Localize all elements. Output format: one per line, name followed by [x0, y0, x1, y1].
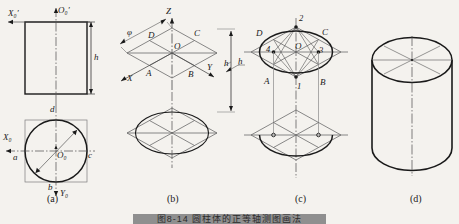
label-y0: Y₀ [60, 188, 68, 198]
label-point-4: 4 [266, 44, 270, 54]
label-x0-prime: X₀′ [8, 8, 19, 18]
caption-b: (b) [167, 193, 179, 204]
caption-d: (d) [410, 193, 422, 204]
label-h-c: h [238, 56, 243, 66]
label-O-c: O [295, 41, 302, 51]
x0-axis-arrow [6, 149, 11, 153]
phi-arrow-right [161, 19, 166, 24]
caption-c: (c) [295, 193, 306, 204]
label-o0: O₀ [57, 150, 67, 160]
center-point-2 [294, 25, 298, 29]
label-point-1: 1 [297, 81, 301, 91]
figure-title-text: 图8-14 圆柱体的正等轴测图画法 [133, 214, 326, 224]
phi-arrow-left [120, 39, 125, 44]
figure-title-bar: 图8-14 圆柱体的正等轴测图画法 [133, 214, 326, 224]
label-z: Z [166, 6, 171, 16]
cylinder-top-center-point [411, 59, 413, 61]
x-axis-arrow [121, 76, 127, 81]
caption-a: (a) [47, 193, 58, 204]
label-x0: X₀ [3, 132, 12, 142]
label-O-b: O [174, 41, 181, 51]
engineering-drawing-figure [0, 0, 459, 224]
label-h-a: h [94, 52, 99, 62]
label-Y-b: Y [207, 62, 212, 72]
label-point-3: 3 [319, 45, 323, 55]
panel-b-h-arrow-top [229, 31, 233, 36]
label-phi: φ [127, 27, 132, 37]
label-o0-prime: O₀′ [58, 5, 70, 15]
center-mark [54, 145, 57, 149]
label-C-c: C [322, 27, 328, 37]
label-C-b: C [194, 28, 200, 38]
label-c-point: c [88, 150, 92, 160]
label-point-2: 2 [299, 13, 303, 23]
panel-d-finished-cylinder [372, 36, 452, 176]
label-D-c: D [256, 28, 263, 38]
label-A-b: A [146, 68, 152, 78]
label-D-b: D [148, 30, 155, 40]
label-A-c: A [264, 76, 270, 86]
label-X-b: X [127, 73, 133, 83]
label-d: d [50, 104, 55, 114]
phi-ext-line-left [121, 47, 127, 53]
height-dim-arrow-bottom [89, 89, 93, 94]
z-axis-arrow [170, 18, 174, 24]
panel-a-front-view [8, 8, 95, 104]
center-point-1 [294, 75, 298, 79]
height-dim-arrow-top [89, 22, 93, 27]
label-B-c: B [320, 77, 326, 87]
label-a-point: a [13, 152, 18, 162]
label-h-b: h [224, 58, 229, 68]
panel-c-four-center-construction [226, 18, 348, 178]
x0-prime-axis-arrow [8, 20, 13, 24]
y-axis-arrow [208, 72, 214, 77]
label-B-b: B [188, 69, 194, 79]
label-b-point: b [48, 182, 53, 192]
panel-b-h-arrow-bottom [229, 106, 233, 111]
